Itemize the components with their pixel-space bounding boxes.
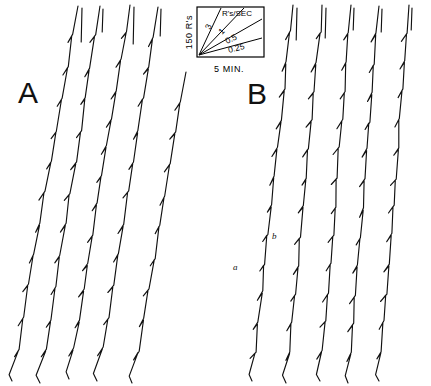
cumulative-record-figure: 310.50.25R's/SEC150 R's5 MIN. ABab bbox=[0, 0, 431, 386]
a-trace-2-reset-stroke bbox=[102, 9, 103, 32]
a-trace-4-reset-stroke bbox=[160, 9, 161, 36]
b-trace-1-reset-stroke bbox=[296, 8, 297, 40]
panel-label-a: A bbox=[18, 76, 38, 109]
b-trace-4-reset-stroke bbox=[381, 9, 382, 32]
a-trace-3-reset-stroke bbox=[133, 7, 134, 44]
figure-root: 310.50.25R's/SEC150 R's5 MIN. ABab bbox=[0, 0, 431, 386]
trace-tag-b: b bbox=[272, 231, 277, 241]
trace-tag-a: a bbox=[233, 262, 238, 272]
b-trace-2-reset-stroke bbox=[325, 8, 326, 38]
inset-rate-units-label: R's/SEC bbox=[222, 9, 252, 18]
b-trace-3-reset-stroke bbox=[353, 8, 354, 30]
panel-label-b: B bbox=[247, 77, 267, 110]
inset-y-axis-label: 150 R's bbox=[184, 15, 194, 49]
a-trace-1-reset-stroke bbox=[81, 8, 82, 42]
inset-x-axis-label: 5 MIN. bbox=[214, 64, 244, 74]
b-trace-5-reset-stroke bbox=[411, 8, 412, 30]
figure-background bbox=[0, 0, 431, 386]
